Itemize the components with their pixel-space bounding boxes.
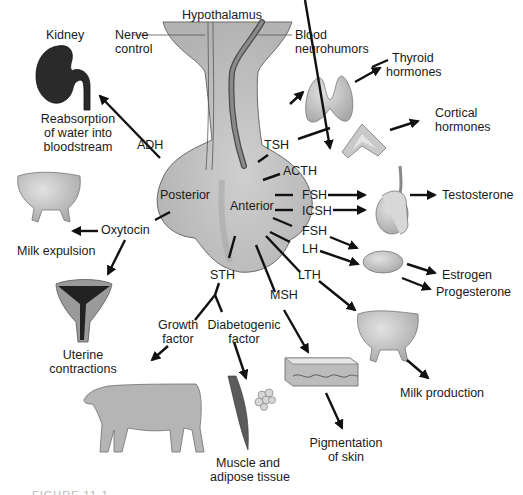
cortical-hormones-label-line1: Cortical: [435, 106, 477, 120]
diabetogenic-factor-label-line2: factor: [205, 332, 283, 346]
nerve-control-label-line2: control: [115, 42, 153, 56]
cortical-hormones-label-line2: hormones: [435, 120, 491, 134]
icsh-label: ICSH: [302, 204, 332, 218]
figure-caption-fragment: FIGURE 11-1: [32, 489, 109, 495]
cow-illustration: [84, 384, 204, 452]
adh-label: ADH: [137, 138, 163, 152]
kidney-illustration: [36, 46, 90, 110]
anterior-lobe-label: Anterior: [230, 199, 274, 213]
fsh-female-label: FSH: [302, 224, 327, 238]
pigmentation-label-line1: Pigmentation: [308, 436, 384, 450]
estrogen-label: Estrogen: [442, 268, 492, 282]
skin-illustration: [285, 358, 358, 386]
posterior-lobe-label: Posterior: [160, 188, 210, 202]
lh-label: LH: [302, 242, 318, 256]
diabetogenic-factor-label-line1: Diabetogenic: [205, 318, 283, 332]
thyroid-hormones-label-line1: Thyroid: [392, 51, 434, 65]
tsh-label: TSH: [264, 138, 289, 152]
muscle-adipose-label-line2: adipose tissue: [210, 470, 286, 484]
growth-factor-label-line2: factor: [158, 332, 198, 346]
thyroid-illustration: [306, 76, 353, 122]
kidney-label: Kidney: [46, 28, 84, 42]
muscle-illustration: [228, 376, 248, 450]
uterus-illustration: [56, 280, 112, 343]
oxytocin-label: Oxytocin: [101, 223, 150, 237]
reabsorption-label-line1: Reabsorption: [40, 112, 116, 126]
ovary-illustration: [363, 251, 403, 273]
udder-left-illustration: [18, 172, 81, 222]
sth-label: STH: [210, 268, 235, 282]
lth-label: LTH: [298, 268, 321, 282]
endocrine-diagram: Hypothalamus Nerve control Blood neurohu…: [0, 0, 523, 495]
blood-neurohumors-label-line1: Blood: [295, 28, 327, 42]
progesterone-label: Progesterone: [436, 285, 511, 299]
milk-expulsion-label: Milk expulsion: [17, 244, 96, 258]
testis-illustration: [376, 166, 408, 234]
blood-neurohumors-label-line2: neurohumors: [295, 42, 369, 56]
acth-label: ACTH: [283, 164, 317, 178]
fsh-male-label: FSH: [302, 188, 327, 202]
milk-production-label: Milk production: [400, 386, 484, 400]
hypothalamus-label: Hypothalamus: [182, 8, 262, 22]
uterine-contractions-label-line2: contractions: [48, 362, 118, 376]
muscle-adipose-label-line1: Muscle and: [210, 456, 286, 470]
uterine-contractions-label-line1: Uterine: [48, 348, 118, 362]
msh-label: MSH: [270, 288, 298, 302]
growth-factor-label-line1: Growth: [158, 318, 198, 332]
thyroid-hormones-label-line2: hormones: [386, 65, 442, 79]
pigmentation-label-line2: of skin: [308, 450, 384, 464]
udder-right-illustration: [358, 311, 419, 362]
reabsorption-label-line3: bloodstream: [40, 140, 116, 154]
adrenal-illustration: [342, 124, 386, 158]
adipose-illustration: [255, 389, 276, 411]
nerve-control-label-line1: Nerve: [115, 28, 148, 42]
testosterone-label: Testosterone: [442, 188, 514, 202]
reabsorption-label-line2: of water into: [40, 126, 116, 140]
